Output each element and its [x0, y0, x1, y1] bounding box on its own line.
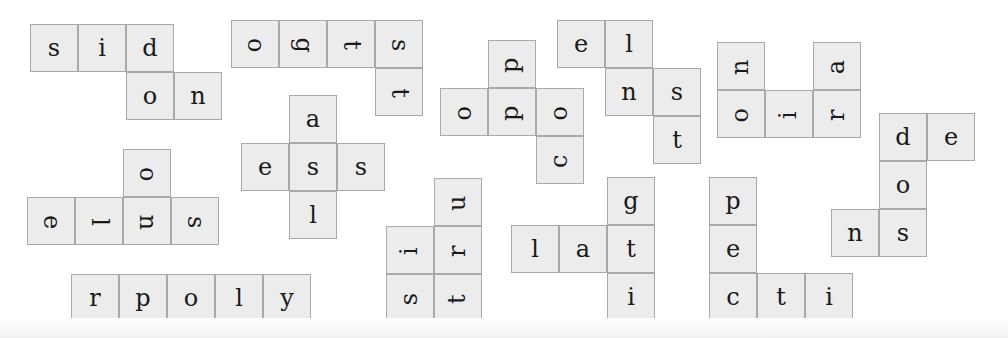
letter-tile[interactable]: o: [231, 20, 279, 68]
tile-letter: s: [671, 80, 683, 104]
tile-letter: l: [625, 32, 633, 56]
tile-letter: e: [944, 125, 958, 149]
tile-letter: r: [89, 286, 100, 310]
letter-tile[interactable]: r: [71, 274, 119, 322]
letter-tile[interactable]: o: [167, 274, 215, 322]
letter-tile[interactable]: o: [717, 90, 765, 138]
letter-tile[interactable]: o: [123, 149, 171, 197]
tile-letter: y: [280, 286, 294, 310]
letter-tile[interactable]: l: [75, 197, 123, 245]
tile-letter: p: [499, 58, 523, 73]
letter-tile[interactable]: u: [434, 178, 482, 226]
letter-tile[interactable]: s: [879, 209, 927, 257]
tile-letter: t: [388, 88, 412, 98]
letter-tile[interactable]: i: [386, 226, 434, 274]
letter-tile[interactable]: s: [30, 24, 78, 72]
letter-tile[interactable]: c: [536, 136, 584, 184]
letter-tile[interactable]: a: [289, 95, 337, 143]
letter-tile[interactable]: p: [488, 40, 536, 88]
tile-letter: o: [136, 167, 160, 181]
letter-tile[interactable]: t: [653, 116, 701, 164]
tile-letter: s: [897, 221, 909, 245]
letter-tile[interactable]: i: [78, 24, 126, 72]
tile-letter: l: [88, 218, 112, 226]
tile-letter: n: [847, 221, 862, 245]
letter-tile[interactable]: a: [813, 42, 861, 90]
letter-tile[interactable]: d: [879, 113, 927, 161]
letter-tile[interactable]: o: [126, 72, 174, 120]
tile-letter: e: [258, 155, 272, 179]
tile-letter: t: [340, 40, 364, 50]
tile-letter: o: [547, 106, 571, 120]
tile-letter: i: [397, 247, 421, 255]
letter-tile[interactable]: n: [605, 68, 653, 116]
tile-letter: r: [824, 109, 848, 120]
letter-tile[interactable]: o: [879, 161, 927, 209]
letter-tile[interactable]: s: [375, 20, 423, 68]
tile-letter: o: [143, 84, 157, 108]
letter-tile[interactable]: y: [263, 274, 311, 322]
tile-letter: r: [445, 245, 469, 256]
tile-letter: e: [726, 237, 740, 261]
tile-letter: s: [184, 216, 208, 228]
letter-tile[interactable]: s: [386, 274, 434, 322]
letter-tile[interactable]: s: [653, 68, 701, 116]
tile-letter: d: [142, 36, 157, 60]
letter-tile[interactable]: l: [215, 274, 263, 322]
letter-tile[interactable]: l: [511, 225, 559, 273]
tile-letter: i: [627, 285, 635, 309]
letter-tile[interactable]: t: [434, 274, 482, 322]
letter-tile[interactable]: n: [717, 42, 765, 90]
letter-tile[interactable]: t: [327, 20, 375, 68]
letter-tile[interactable]: t: [607, 225, 655, 273]
letter-tile[interactable]: g: [607, 177, 655, 225]
letter-tile[interactable]: l: [605, 20, 653, 68]
letter-tile[interactable]: t: [375, 68, 423, 116]
letter-tile[interactable]: o: [440, 88, 488, 136]
letter-tile[interactable]: e: [557, 20, 605, 68]
letter-tile[interactable]: l: [289, 191, 337, 239]
tile-letter: o: [728, 108, 752, 122]
letter-tile[interactable]: p: [488, 88, 536, 136]
tile-letter: s: [355, 155, 367, 179]
tile-letter: a: [824, 60, 848, 74]
letter-tile[interactable]: n: [174, 72, 222, 120]
letter-tile[interactable]: r: [434, 226, 482, 274]
letter-tile[interactable]: o: [536, 88, 584, 136]
letter-tile[interactable]: t: [757, 273, 805, 321]
tile-letter: i: [825, 285, 833, 309]
tile-letter: g: [623, 189, 638, 213]
letter-tile[interactable]: i: [805, 273, 853, 321]
letter-tile[interactable]: e: [27, 197, 75, 245]
tile-letter: l: [235, 286, 243, 310]
letter-tile[interactable]: e: [927, 113, 975, 161]
tile-letter: e: [40, 215, 64, 229]
letter-tile[interactable]: i: [607, 273, 655, 321]
tile-letter: n: [728, 59, 752, 74]
tile-letter: o: [896, 173, 910, 197]
letter-tile[interactable]: c: [709, 273, 757, 321]
letter-tile[interactable]: s: [171, 197, 219, 245]
letter-tile[interactable]: g: [279, 20, 327, 68]
tile-letter: o: [451, 106, 475, 120]
tile-letter: o: [244, 38, 268, 52]
letter-tile[interactable]: i: [765, 90, 813, 138]
letter-tile[interactable]: e: [709, 225, 757, 273]
tile-letter: n: [190, 84, 205, 108]
letter-tile[interactable]: a: [559, 225, 607, 273]
letter-tile[interactable]: s: [337, 143, 385, 191]
letter-tile[interactable]: p: [709, 177, 757, 225]
bottom-band: [0, 318, 1008, 338]
tile-letter: p: [135, 286, 150, 310]
tile-letter: o: [184, 286, 198, 310]
letter-tile[interactable]: n: [123, 197, 171, 245]
letter-tile[interactable]: r: [813, 90, 861, 138]
tile-letter: t: [672, 128, 682, 152]
letter-tile[interactable]: n: [831, 209, 879, 257]
tile-letter: c: [726, 285, 739, 309]
letter-tile[interactable]: p: [119, 274, 167, 322]
letter-tile[interactable]: s: [289, 143, 337, 191]
letter-tile[interactable]: d: [126, 24, 174, 72]
letter-tile[interactable]: e: [241, 143, 289, 191]
tile-letter: e: [574, 32, 588, 56]
